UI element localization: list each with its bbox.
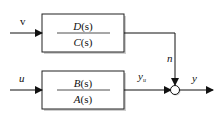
plant-numerator: B(s) xyxy=(74,77,93,90)
plant-output-label: yu xyxy=(137,70,146,83)
noise-output-label: n xyxy=(167,52,173,64)
noise-numerator: D(s) xyxy=(72,20,93,33)
block-diagram: D(s) C(s) B(s) A(s) v u n yu y xyxy=(0,0,220,113)
total-output-label: y xyxy=(191,72,197,84)
noise-denominator: C(s) xyxy=(74,36,93,49)
control-input-label: u xyxy=(19,72,25,84)
noise-input-label: v xyxy=(20,15,26,27)
plant-denominator: A(s) xyxy=(73,93,93,106)
summing-junction xyxy=(171,86,180,95)
